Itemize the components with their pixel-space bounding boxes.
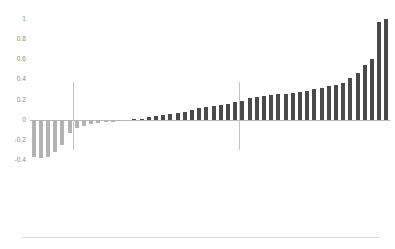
bar-45 (348, 78, 352, 119)
bar-50 (384, 19, 388, 120)
bar-11 (104, 120, 108, 122)
bar-7 (75, 120, 79, 128)
bar-19 (161, 115, 165, 120)
bar-2 (39, 120, 43, 158)
plot-area (30, 14, 390, 160)
footer-divider (22, 237, 380, 238)
bar-12 (111, 120, 115, 122)
bar-48 (370, 59, 374, 119)
bar-30 (240, 101, 244, 120)
bar-44 (341, 83, 345, 119)
bar-24 (197, 108, 201, 120)
bar-8 (82, 120, 86, 126)
bar-25 (204, 107, 208, 120)
bar-3 (46, 120, 50, 157)
y-axis-tick-3: 0.4 (17, 76, 26, 83)
bar-29 (233, 102, 237, 120)
bar-46 (356, 73, 360, 119)
separator-left (73, 82, 74, 149)
y-axis-tick-7: -0.4 (14, 157, 26, 164)
y-axis-tick-labels: 10.80.60.40.20-0.2-0.4 (0, 14, 30, 160)
bar-43 (334, 85, 338, 119)
bar-36 (284, 94, 288, 120)
y-axis-tick-2: 0.6 (17, 56, 26, 63)
bar-13 (118, 120, 122, 121)
bar-1 (32, 120, 36, 157)
bar-14 (125, 120, 129, 121)
bar-series (30, 14, 390, 160)
bar-34 (269, 95, 273, 120)
separator-right (239, 82, 240, 149)
y-axis-tick-1: 0.8 (17, 36, 26, 43)
bar-18 (154, 116, 158, 120)
bar-38 (298, 92, 302, 120)
bar-37 (291, 93, 295, 120)
bar-39 (305, 91, 309, 120)
bar-26 (212, 106, 216, 120)
y-axis-tick-4: 0.2 (17, 96, 26, 103)
bar-22 (183, 112, 187, 120)
bar-6 (68, 120, 72, 133)
y-axis-tick-6: -0.2 (14, 137, 26, 144)
bar-47 (363, 65, 367, 119)
bar-4 (53, 120, 57, 152)
bar-33 (262, 96, 266, 120)
bar-35 (276, 94, 280, 120)
bar-10 (96, 120, 100, 123)
bar-31 (248, 98, 252, 120)
bar-9 (89, 120, 93, 124)
bar-23 (190, 110, 194, 120)
bar-42 (327, 86, 331, 119)
bar-20 (168, 114, 172, 120)
bar-5 (60, 120, 64, 145)
bar-32 (255, 97, 259, 120)
bar-49 (377, 22, 381, 120)
bar-16 (140, 119, 144, 120)
bar-41 (320, 88, 324, 120)
bar-15 (132, 119, 136, 120)
y-axis-tick-0: 1 (22, 16, 26, 23)
chart-figure: 10.80.60.40.20-0.2-0.4 (0, 0, 395, 249)
bar-40 (312, 89, 316, 120)
x-axis-category-labels (30, 162, 390, 232)
y-axis-tick-5: 0 (22, 116, 26, 123)
bar-28 (226, 104, 230, 120)
bar-27 (219, 105, 223, 120)
bar-21 (176, 113, 180, 120)
bar-17 (147, 117, 151, 120)
